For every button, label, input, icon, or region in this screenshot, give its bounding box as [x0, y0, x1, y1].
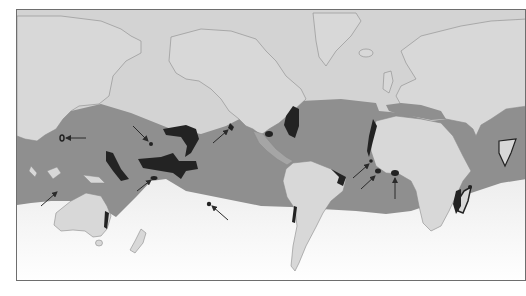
- patch-pacific-dot: [149, 142, 153, 146]
- patch-west-africa-dot: [369, 159, 373, 163]
- patch-south-pacific-east: [207, 202, 211, 206]
- patch-gulf-guinea-1: [375, 169, 381, 174]
- map-canvas: [17, 10, 526, 281]
- patch-south-pacific: [151, 176, 158, 180]
- world-map: [16, 9, 526, 281]
- iceland-land: [359, 49, 373, 57]
- patch-reunion: [468, 185, 472, 189]
- patch-yucatan: [265, 131, 273, 137]
- patch-gulf-guinea-2: [391, 170, 399, 176]
- tasmania-land: [96, 240, 103, 246]
